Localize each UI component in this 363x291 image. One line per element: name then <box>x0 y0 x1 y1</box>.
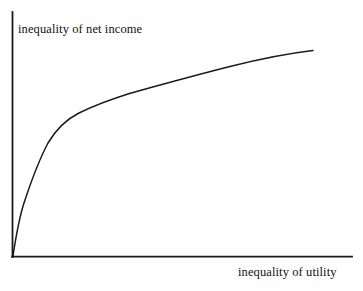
concave-curve <box>13 51 313 258</box>
plot-area <box>0 0 363 291</box>
figure-canvas: inequality of net income inequality of u… <box>0 0 363 291</box>
y-axis-label: inequality of net income <box>18 22 142 36</box>
x-axis-label: inequality of utility <box>238 265 337 279</box>
